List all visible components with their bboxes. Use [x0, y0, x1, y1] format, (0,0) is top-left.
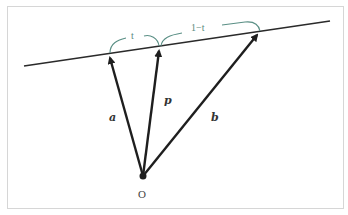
- vector-a-label: a: [109, 111, 116, 124]
- vector-diagram: t 1−t a p b O: [0, 0, 348, 215]
- vector-p-arrow-icon: [143, 51, 159, 176]
- line-ab: [24, 21, 330, 66]
- vector-b-arrow-icon: [143, 35, 257, 176]
- brace-t-label: t: [131, 30, 134, 41]
- vector-b-label: b: [211, 111, 219, 124]
- vector-p-label: p: [164, 94, 172, 107]
- origin-point-icon: [140, 173, 147, 180]
- origin-label: O: [138, 188, 146, 200]
- brace-1-minus-t-label: 1−t: [191, 22, 205, 33]
